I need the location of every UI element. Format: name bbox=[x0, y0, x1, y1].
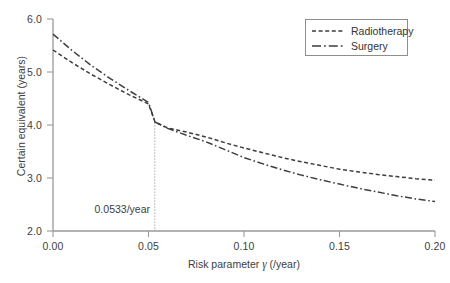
y-tick-label: 6.0 bbox=[8, 13, 42, 25]
y-tick-label: 2.0 bbox=[8, 225, 42, 237]
x-tick-label: 0.20 bbox=[413, 240, 450, 252]
x-tick-label: 0.10 bbox=[222, 240, 266, 252]
legend-item-radiotherapy: Radiotherapy bbox=[311, 24, 413, 38]
x-tick-label: 0.15 bbox=[318, 240, 362, 252]
x-axis-title-prefix: Risk parameter bbox=[188, 258, 262, 270]
x-tick-label: 0.05 bbox=[127, 240, 171, 252]
legend-item-surgery: Surgery bbox=[311, 39, 388, 53]
x-tick-label: 0.00 bbox=[31, 240, 75, 252]
chart-legend: Radiotherapy Surgery bbox=[305, 19, 408, 56]
legend-label: Radiotherapy bbox=[351, 25, 413, 37]
annotation-label: 0.0533/year bbox=[86, 203, 150, 215]
series-line-radiotherapy bbox=[53, 50, 435, 180]
x-axis-ticks bbox=[53, 231, 435, 237]
y-axis-title: Certain equivalent (years) bbox=[15, 31, 27, 201]
x-axis-title-suffix: (/year) bbox=[267, 258, 300, 270]
legend-label: Surgery bbox=[351, 40, 388, 52]
legend-swatch-dashed-icon bbox=[311, 26, 346, 36]
series-line-surgery bbox=[53, 34, 435, 202]
legend-swatch-dashdot-icon bbox=[311, 41, 346, 51]
x-axis-title: Risk parameter γ (/year) bbox=[53, 258, 435, 270]
y-axis-ticks bbox=[47, 19, 53, 231]
